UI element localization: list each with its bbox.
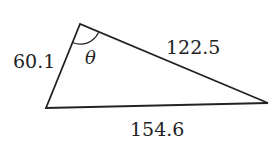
side-left-label: 60.1	[13, 50, 55, 72]
side-top-right-label: 122.5	[166, 36, 220, 58]
angle-theta-label: θ	[85, 47, 96, 68]
triangle	[46, 24, 268, 108]
triangle-diagram: θ 60.1 122.5 154.6	[0, 0, 279, 151]
side-bottom-label: 154.6	[130, 118, 184, 140]
